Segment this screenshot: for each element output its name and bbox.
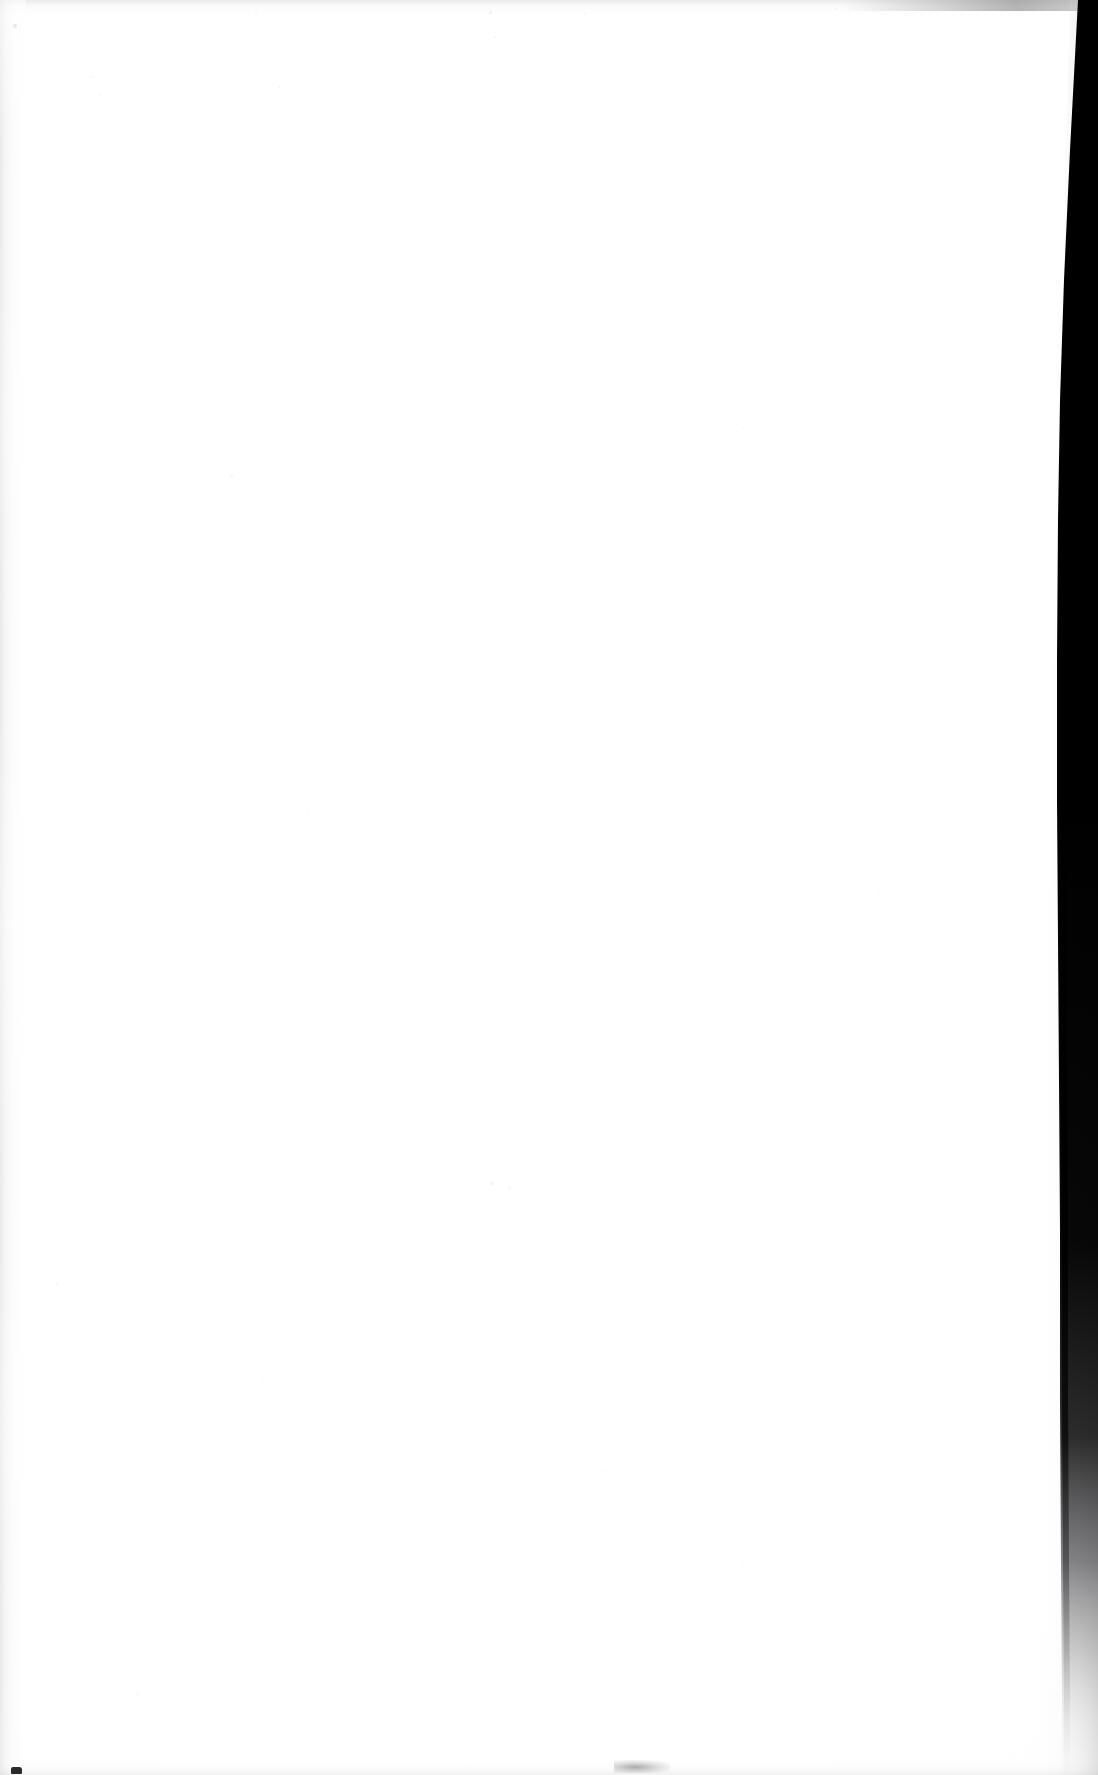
page-text-content: [60, 60, 958, 1715]
scanned-page: [0, 0, 1098, 1775]
